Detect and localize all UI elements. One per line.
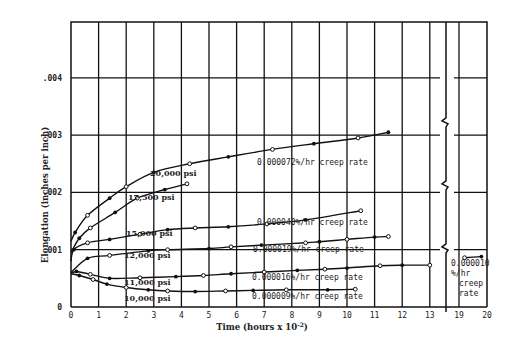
data-point-12-000-psi xyxy=(373,235,377,239)
y-axis-label: Elongation (inches per inch) xyxy=(40,127,50,264)
right-panel-annotation: 0.000010 xyxy=(451,259,490,268)
data-point-15-000-psi xyxy=(108,237,112,241)
data-point-11-000-psi xyxy=(202,274,206,278)
data-point-12-000-psi xyxy=(108,254,112,258)
data-point-10-000-psi xyxy=(146,288,150,292)
data-point-17-500-psi xyxy=(185,182,189,186)
creep-rate-label: 0.000040%/hr creep rate xyxy=(257,218,368,227)
data-point-10-000-psi xyxy=(77,274,81,278)
data-point-11-000-psi xyxy=(75,270,79,274)
x-axis-label-exp: -2 xyxy=(297,321,304,328)
data-point-17-500-psi xyxy=(113,211,117,215)
series-label: 20,000 psi xyxy=(150,168,197,178)
data-point-20-000-psi xyxy=(356,136,360,140)
x-tick-label: 6 xyxy=(234,311,239,320)
data-point-11-000-psi xyxy=(108,276,112,280)
data-point-10-000-psi xyxy=(105,282,109,286)
x-axis-label-main: Time (hours x 10 xyxy=(216,322,297,332)
data-point-20-000-psi xyxy=(124,185,128,189)
data-point-20-000-psi xyxy=(188,162,192,166)
data-point-12-000-psi xyxy=(318,240,322,244)
data-point-20-000-psi xyxy=(86,213,90,217)
data-point-15-000-psi xyxy=(226,225,230,229)
series-line-long-term-segment xyxy=(465,257,482,258)
y-tick-label: 0 xyxy=(57,303,62,312)
axes xyxy=(71,22,487,312)
series-label: 12,000 psi xyxy=(124,250,171,260)
data-point-10-000-psi xyxy=(193,290,197,294)
data-point-20-000-psi xyxy=(312,142,316,146)
x-tick-label: 12 xyxy=(397,311,407,320)
data-point-11-000-psi xyxy=(88,272,92,276)
creep-rate-label: 0.000019%/hr creep rate xyxy=(253,245,364,254)
right-panel-annotation: %/hr xyxy=(451,269,470,278)
series-label: 11,000 psi xyxy=(124,277,171,287)
data-point-10-000-psi xyxy=(91,278,95,282)
data-point-15-000-psi xyxy=(193,226,197,230)
x-axis-label-close: ) xyxy=(304,322,308,332)
x-tick-label: 0 xyxy=(69,311,74,320)
data-point-15-000-psi xyxy=(359,209,363,213)
data-point-11-000-psi xyxy=(229,272,233,276)
x-tick-label: 1 xyxy=(96,311,101,320)
data-point-15-000-psi xyxy=(72,248,76,252)
data-point-11-000-psi xyxy=(345,266,349,270)
x-tick-label: 7 xyxy=(262,311,267,320)
x-tick-label: 9 xyxy=(317,311,322,320)
creep-rate-label: 0.000072%/hr creep rate xyxy=(257,158,368,167)
series-line-12-000-psi xyxy=(71,237,388,273)
x-tick-label: 5 xyxy=(207,311,212,320)
x-tick-label: 4 xyxy=(179,311,184,320)
data-point-11-000-psi xyxy=(378,264,382,268)
x-tick-label: 8 xyxy=(289,311,294,320)
data-point-17-500-psi xyxy=(88,226,92,230)
y-tick-label: .004 xyxy=(43,74,62,83)
series-curves xyxy=(71,130,483,293)
data-point-10-000-psi xyxy=(353,287,357,291)
data-point-12-000-psi xyxy=(229,245,233,249)
series-label: 17,500 psi xyxy=(128,192,175,202)
series-label: 15,000 psi xyxy=(126,228,173,238)
data-point-12-000-psi xyxy=(345,237,349,241)
data-point-11-000-psi xyxy=(428,263,432,267)
x-tick-label: 20 xyxy=(482,311,492,320)
right-panel-annotation: rate xyxy=(459,289,478,298)
data-point-long-term-segment xyxy=(480,255,484,259)
data-point-12-000-psi xyxy=(86,256,90,260)
right-panel-annotation: creep xyxy=(459,279,483,288)
data-point-12-000-psi xyxy=(387,235,391,239)
x-tick-label: 19 xyxy=(454,311,464,320)
x-tick-label: 13 xyxy=(425,311,435,320)
x-tick-label: 3 xyxy=(151,311,156,320)
x-tick-label: 10 xyxy=(342,311,352,320)
creep-rate-label: 0.000016%/hr creep rate xyxy=(252,273,363,282)
data-point-17-500-psi xyxy=(163,188,167,192)
data-point-20-000-psi xyxy=(73,231,77,235)
creep-rate-label: 0.000009%/hr creep rate xyxy=(252,292,363,301)
data-point-11-000-psi xyxy=(174,275,178,279)
data-point-20-000-psi xyxy=(387,130,391,134)
x-axis-label: Time (hours x 10-2) xyxy=(216,321,308,332)
data-point-20-000-psi xyxy=(108,196,112,200)
data-point-15-000-psi xyxy=(86,241,90,245)
x-tick-label: 11 xyxy=(370,311,380,320)
x-tick-label: 2 xyxy=(124,311,129,320)
data-point-20-000-psi xyxy=(226,155,230,159)
data-point-11-000-psi xyxy=(400,263,404,267)
data-point-17-500-psi xyxy=(77,236,81,240)
creep-chart: 01234567891011121319200.001.002.003.0042… xyxy=(0,0,522,340)
data-point-11-000-psi xyxy=(323,267,327,271)
data-point-11-000-psi xyxy=(295,268,299,272)
data-point-20-000-psi xyxy=(271,148,275,152)
axis-break-line xyxy=(442,22,448,312)
data-point-10-000-psi xyxy=(224,289,228,293)
series-label: 10,000 psi xyxy=(124,293,171,303)
data-point-12-000-psi xyxy=(207,247,211,251)
